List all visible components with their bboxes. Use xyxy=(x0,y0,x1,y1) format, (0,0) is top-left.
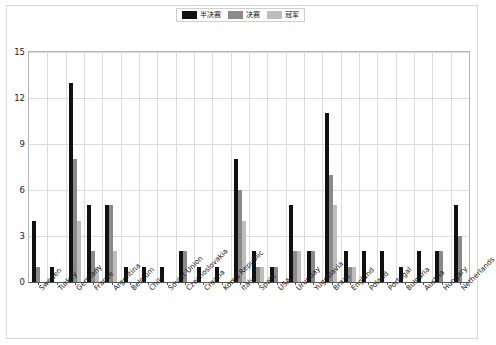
y-tick-label: 6 xyxy=(20,185,25,195)
bar-group[interactable] xyxy=(157,52,175,282)
bar-group[interactable] xyxy=(304,52,322,282)
bar[interactable] xyxy=(36,267,40,282)
y-tick-label: 12 xyxy=(14,93,25,103)
bar[interactable] xyxy=(77,221,81,282)
bar-group[interactable] xyxy=(29,52,47,282)
bar-group[interactable] xyxy=(377,52,395,282)
bar-group[interactable] xyxy=(66,52,84,282)
bar-group[interactable] xyxy=(286,52,304,282)
bar-group[interactable] xyxy=(322,52,340,282)
legend-label-final: 决赛 xyxy=(246,11,260,19)
bar-group[interactable] xyxy=(359,52,377,282)
bar-group[interactable] xyxy=(341,52,359,282)
plot-area: 03691215 SwedenTurkeyGermanyFranceArgent… xyxy=(28,51,470,283)
bar-group[interactable] xyxy=(102,52,120,282)
legend-label-champion: 冠军 xyxy=(285,11,299,19)
bar-group[interactable] xyxy=(121,52,139,282)
bar-group[interactable] xyxy=(231,52,249,282)
legend-item-champion[interactable]: 冠军 xyxy=(267,11,299,19)
bar-group[interactable] xyxy=(194,52,212,282)
bar-group[interactable] xyxy=(451,52,469,282)
y-tick-label: 0 xyxy=(20,277,25,287)
legend-item-semi-final[interactable]: 半决赛 xyxy=(182,11,221,19)
bars-layer xyxy=(29,52,469,282)
bar-group[interactable] xyxy=(139,52,157,282)
bar-group[interactable] xyxy=(396,52,414,282)
legend-label-semi-final: 半决赛 xyxy=(200,11,221,19)
legend-swatch-semi-final xyxy=(182,11,197,19)
y-tick-label: 9 xyxy=(20,139,25,149)
bar-group[interactable] xyxy=(47,52,65,282)
y-tick-label: 3 xyxy=(20,231,25,241)
bar[interactable] xyxy=(297,251,301,282)
bar-group[interactable] xyxy=(267,52,285,282)
y-tick-label: 15 xyxy=(14,47,25,57)
bar-group[interactable] xyxy=(84,52,102,282)
bar-group[interactable] xyxy=(432,52,450,282)
bar-group[interactable] xyxy=(414,52,432,282)
bar-group[interactable] xyxy=(176,52,194,282)
bar[interactable] xyxy=(113,251,117,282)
chart-legend: 半决赛 决赛 冠军 xyxy=(176,8,305,22)
legend-swatch-champion xyxy=(267,11,282,19)
legend-item-final[interactable]: 决赛 xyxy=(228,11,260,19)
legend-swatch-final xyxy=(228,11,243,19)
